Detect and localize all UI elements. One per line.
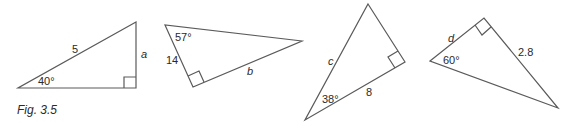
hypotenuse-label: 5 — [72, 43, 78, 55]
side-label: 8 — [366, 86, 372, 98]
right-angle-marker — [124, 77, 136, 88]
right-angle-marker — [388, 51, 398, 68]
triangle-1-outline — [18, 22, 136, 88]
side-label: 14 — [166, 54, 178, 66]
right-angle-marker — [475, 25, 491, 35]
triangle-3-outline — [305, 4, 405, 120]
figure-caption: Fig. 3.5 — [17, 103, 57, 117]
angle-label: 38° — [322, 93, 339, 105]
angle-label: 40° — [38, 75, 55, 87]
figure-3-5: 5 a 40° Fig. 3.5 57° 14 b c 8 38° d 2.8 … — [0, 0, 574, 123]
side-label: 2.8 — [518, 46, 533, 58]
triangle-1: 5 a 40° — [18, 22, 147, 88]
unknown-side-label: b — [247, 65, 253, 77]
angle-label: 57° — [175, 31, 192, 43]
triangle-4: d 2.8 60° — [430, 18, 558, 108]
triangle-2: 57° 14 b — [165, 25, 302, 87]
triangle-3: c 8 38° — [305, 4, 405, 120]
unknown-side-label: a — [141, 48, 147, 60]
angle-label: 60° — [443, 54, 460, 66]
unknown-side-label: d — [448, 32, 455, 44]
unknown-side-label: c — [328, 55, 334, 67]
